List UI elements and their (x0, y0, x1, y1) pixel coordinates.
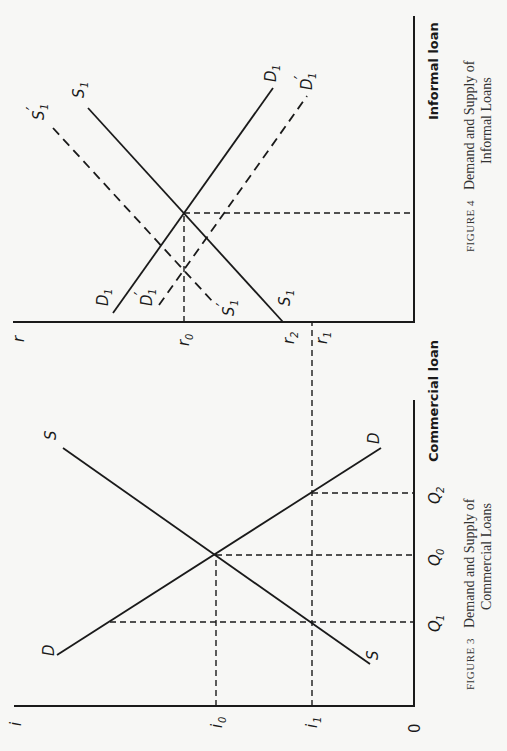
economics-figures-rotated: S D D S i i 0 i 1 0 Q 1 Q 0 Q 2 (0, 0, 507, 751)
svg-text:D: D (298, 78, 316, 90)
svg-text:0: 0 (184, 334, 195, 340)
fig3-label-S-top: S (42, 430, 60, 440)
figure-3-commercial-loans: S D D S i i 0 i 1 0 Q 1 Q 0 Q 2 (7, 322, 494, 733)
svg-text:1: 1 (285, 290, 296, 296)
svg-text:1: 1 (271, 65, 282, 71)
fig4-demand-curve-D1-prime (159, 96, 307, 305)
svg-text:1: 1 (322, 332, 333, 338)
svg-text:′: ′ (24, 106, 42, 110)
fig4-tick-r0: r 0 (175, 334, 195, 346)
fig3-label-S-bottom: S (364, 650, 382, 660)
fig4-demand-curve-D1 (113, 88, 273, 313)
fig4-r-axis-label: r (10, 335, 28, 342)
fig3-label-D-bottom: D (40, 644, 58, 656)
svg-text:′: ′ (292, 75, 310, 79)
svg-text:i: i (7, 721, 25, 726)
figure-4-informal-loans: S 1 S 1 ′ D 1 D 1 ′ D 1 D 1 ′ S 1 ′ (10, 16, 494, 346)
svg-text:1: 1 (312, 717, 323, 723)
svg-text:1: 1 (435, 615, 446, 621)
svg-text:D: D (94, 294, 112, 306)
fig4-x-axis-title: Informal loan (426, 22, 441, 120)
fig4-tick-r2: r 2 (280, 332, 300, 344)
svg-text:′: ′ (214, 302, 232, 306)
fig4-label-S1-top: S 1 (70, 82, 90, 98)
svg-text:0: 0 (217, 717, 228, 723)
fig4-label-D1-bottom: D 1 (94, 289, 114, 306)
fig3-caption: FIGURE 3 Demand and Supply of Commercial… (462, 498, 494, 690)
svg-text:1: 1 (79, 82, 90, 88)
fig3-label-D-top: D (365, 432, 383, 444)
svg-text:S: S (220, 306, 238, 316)
svg-text:0: 0 (406, 723, 424, 733)
fig4-supply-curve-S1-prime (53, 128, 213, 302)
svg-text:1: 1 (103, 289, 114, 295)
svg-text:D: D (262, 70, 280, 82)
fig3-tick-Q2: Q 2 (426, 487, 446, 504)
fig3-i-axis-label: i (7, 721, 25, 726)
fig4-supply-curve-S1 (88, 108, 283, 322)
fig4-tick-r1: r 1 (313, 332, 333, 344)
svg-text:FIGURE 3: FIGURE 3 (464, 638, 476, 690)
svg-text:S: S (30, 110, 48, 120)
fig3-origin-label: 0 (406, 723, 424, 733)
svg-text:FIGURE 4: FIGURE 4 (464, 200, 476, 252)
svg-text:2: 2 (435, 487, 446, 493)
fig4-label-D1-prime-bottom: D 1 ′ (132, 289, 158, 306)
svg-text:Demand and Supply of: Demand and Supply of (462, 60, 477, 190)
svg-text:Commercial Loans: Commercial Loans (479, 503, 494, 610)
svg-text:′: ′ (132, 291, 150, 295)
fig3-x-axis-title: Commercial loan (426, 340, 441, 462)
svg-text:2: 2 (289, 332, 300, 338)
fig4-label-S1-bottom: S 1 (276, 290, 296, 306)
fig3-tick-Q0: Q 0 (426, 549, 446, 566)
fig4-label-S1-prime-bottom: S 1 ′ (214, 300, 240, 316)
svg-text:r: r (10, 335, 28, 342)
fig3-tick-i1: i 1 (303, 717, 323, 728)
fig4-label-S1-prime-top: S 1 ′ (24, 104, 50, 120)
svg-text:S: S (70, 88, 88, 98)
fig3-tick-Q1: Q 1 (426, 615, 446, 632)
fig4-label-D1-prime-top: D 1 ′ (292, 73, 318, 90)
fig4-label-D1-top: D 1 (262, 65, 282, 82)
svg-text:D: D (138, 294, 156, 306)
svg-text:0: 0 (435, 549, 446, 555)
svg-text:Demand and Supply of: Demand and Supply of (462, 498, 477, 628)
svg-text:Informal Loans: Informal Loans (479, 77, 494, 164)
fig3-tick-i0: i 0 (208, 717, 228, 728)
svg-text:S: S (276, 296, 294, 306)
fig4-caption: FIGURE 4 Demand and Supply of Informal L… (462, 60, 494, 252)
